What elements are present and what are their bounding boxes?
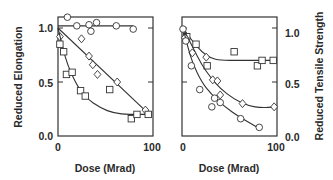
left-panel: 1.0 0.5 0.0 0 100 Dose (Mrad) Reduced El… <box>12 14 161 174</box>
right-circle-marker <box>256 124 263 131</box>
left-x-axis-title: Dose (Mrad) <box>75 162 136 174</box>
left-circle-marker <box>74 23 81 30</box>
left-circle-marker <box>86 21 93 28</box>
right-square-marker <box>193 41 199 47</box>
right-ytick-label-05: 0.5 <box>285 78 300 90</box>
right-ytick-label-0: 0.0 <box>285 131 300 143</box>
left-diamond-marker <box>114 78 121 86</box>
right-circle-marker <box>188 63 195 70</box>
right-circle-marker <box>217 99 224 106</box>
right-series-group <box>180 26 278 131</box>
left-ytick-label-0: 0.0 <box>38 130 53 142</box>
right-square-marker <box>259 57 265 63</box>
left-diamond-marker <box>94 70 101 78</box>
right-ytick-label-1: 1.0 <box>285 27 300 39</box>
chart-canvas: 1.0 0.5 0.0 0 100 Dose (Mrad) Reduced El… <box>0 0 333 180</box>
left-square-marker <box>134 111 140 117</box>
left-ytick-label-05: 0.5 <box>38 77 53 89</box>
right-xtick-label-0: 0 <box>180 141 186 153</box>
right-diamond-marker <box>203 53 210 61</box>
right-x-axis-title: Dose (Mrad) <box>199 162 260 174</box>
left-square-marker <box>60 49 66 55</box>
right-square-marker <box>231 49 237 55</box>
left-square-marker <box>107 86 113 92</box>
right-circle-marker <box>196 86 203 93</box>
right-circle-marker <box>182 38 189 45</box>
right-square-marker <box>270 57 276 63</box>
left-diamond-marker <box>89 61 96 69</box>
left-xtick-label-0: 0 <box>55 141 61 153</box>
right-panel: 1.0 0.5 0.0 0 100 Dose (Mrad) Reduced Te… <box>180 12 325 174</box>
right-circle-marker <box>237 115 244 122</box>
left-circle-marker <box>93 19 100 26</box>
left-y-axis-title: Reduced Elongation <box>12 26 24 128</box>
right-circle-marker <box>180 26 187 33</box>
left-circle-marker <box>130 26 137 33</box>
right-circle-marker <box>209 104 216 111</box>
left-square-marker <box>145 111 151 117</box>
left-square-marker <box>57 41 63 47</box>
right-y-axis-title: Reduced Tensile Strength <box>313 12 325 141</box>
left-square-marker <box>69 69 75 75</box>
left-circle-marker <box>113 23 120 30</box>
right-diamond-marker <box>239 100 246 108</box>
right-circle-marker <box>211 95 218 102</box>
left-xtick-label-100: 100 <box>143 141 161 153</box>
left-circle-marker <box>88 28 95 35</box>
left-square-marker <box>82 93 88 99</box>
right-square-marker <box>204 63 210 69</box>
right-xtick-label-100: 100 <box>267 141 285 153</box>
left-ytick-label-1: 1.0 <box>38 22 53 34</box>
left-diamond-marker <box>78 35 85 43</box>
left-series-group <box>56 14 151 122</box>
right-plot-frame <box>182 17 277 136</box>
left-circle-marker <box>64 14 71 21</box>
